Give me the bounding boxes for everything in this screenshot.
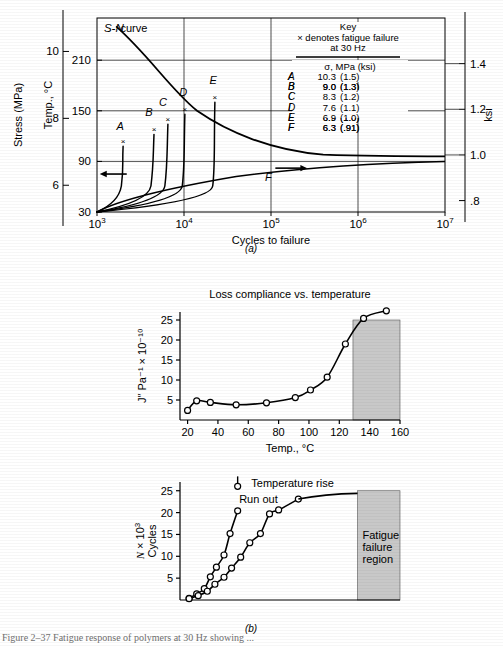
data-point-s0-4	[213, 564, 219, 570]
data-point-top-1	[194, 398, 200, 404]
temp-tick-90: 90	[78, 155, 91, 167]
data-point-s1-9	[267, 511, 273, 517]
failure-marker-D: ×	[183, 105, 188, 114]
panel-b-top-xlabel: Temp., °C	[266, 442, 314, 454]
xtick-label-7: 107	[436, 216, 454, 230]
key-row-mpa-top-F: 6.3	[323, 122, 336, 133]
failure-marker-A: ×	[121, 137, 126, 146]
panel-b-bot-ylabel-cycles: Cycles	[146, 524, 158, 558]
panel-b-top-title: Loss compliance vs. temperature	[209, 288, 370, 300]
failure-marker-E: ×	[213, 93, 218, 102]
panel-b-top-xtick-label-140: 140	[360, 426, 378, 438]
temp-tick-30: 30	[78, 206, 91, 218]
panel-a-chart: 103104105106107Cycles to failure30901502…	[0, 0, 503, 258]
panel-b-bottom-chart: Fatiguefailureregion510152025N × 103Cycl…	[0, 460, 503, 640]
panel-b-top-xtick-label-100: 100	[300, 426, 318, 438]
data-point-s1-0	[186, 596, 192, 602]
data-point-top-2	[207, 399, 213, 405]
temp-tick-150: 150	[72, 105, 91, 117]
panel-b-top-ytick-label-20: 20	[161, 334, 173, 346]
data-point-top-0	[185, 407, 191, 413]
panel-b-bot-ytick-label-5: 5	[167, 572, 173, 584]
panel-b-top-ytick-label-15: 15	[161, 354, 173, 366]
panel-a-caption: (a)	[245, 243, 257, 254]
temp-rise-tail	[298, 493, 357, 499]
xtick-label-6: 106	[349, 216, 367, 230]
panel-b-bot-ytick-label-15: 15	[161, 528, 173, 540]
ksi-tick-label-1: 1.0	[470, 149, 486, 161]
panel-b-top-xtick-label-40: 40	[212, 426, 224, 438]
curve-label-A: A	[115, 120, 123, 132]
xtick-label-3: 103	[88, 216, 106, 230]
data-point-s1-7	[247, 540, 253, 546]
data-point-top-4	[263, 400, 269, 406]
panel-b-top-ytick-label-10: 10	[161, 374, 173, 386]
xtick-label-4: 104	[175, 216, 193, 230]
data-point-top-8	[342, 341, 348, 347]
curve-label-B: B	[145, 106, 152, 118]
panel-b-top-xtick-label-60: 60	[242, 426, 254, 438]
panel-a-ylabel-temp: Temp., °C	[42, 81, 54, 129]
ksi-tick-label-3: 1.4	[470, 58, 487, 70]
curve-label-D: D	[179, 86, 187, 98]
data-point-s1-5	[229, 565, 235, 571]
data-point-s0-5	[221, 552, 227, 558]
panel-b-top-chart: Loss compliance vs. temperature510152025…	[0, 280, 503, 470]
key-row-label-top-F: F	[288, 122, 295, 133]
panel-b-bot-ytick-label-25: 25	[161, 485, 173, 497]
data-point-s1-2	[204, 588, 210, 594]
panel-b-bot-ytick-label-20: 20	[161, 507, 173, 519]
curve-label-C: C	[159, 96, 167, 108]
data-point-s1-8	[257, 531, 263, 537]
data-point-top-6	[307, 387, 313, 393]
figure-container: 103104105106107Cycles to failure30901502…	[0, 0, 503, 646]
data-point-s1-1	[195, 593, 201, 599]
panel-b-bot-ylabel: N × 103	[133, 522, 146, 560]
panel-b-top-ytick-label-5: 5	[167, 394, 173, 406]
stress-tick-10: 10	[46, 45, 59, 57]
s-n-curve-label-word: curve	[120, 22, 147, 34]
series-line-1	[189, 499, 298, 599]
panel-b-top-ytick-label-25: 25	[161, 314, 173, 326]
temperature-rise-label: Temperature rise	[251, 477, 334, 489]
data-point-s0-7	[235, 508, 241, 514]
key-row-ksi-top-F: (.91)	[340, 122, 360, 133]
panel-b-bot-ytick-label-10: 10	[161, 550, 173, 562]
key-subtitle-2-top: at 30 Hz	[330, 42, 366, 53]
failure-marker-C: ×	[166, 115, 171, 124]
panel-a-ylabel-stress: Stress (MPa)	[12, 83, 24, 147]
panel-b-top-xtick-label-20: 20	[181, 426, 193, 438]
xtick-label-5: 105	[262, 216, 280, 230]
panel-b-top-xtick-label-80: 80	[272, 426, 284, 438]
data-point-s1-10	[276, 507, 282, 513]
fatigue-shaded-region-top	[353, 320, 400, 420]
temp-tick-210: 210	[72, 54, 91, 66]
arrow-left-icon	[100, 171, 107, 177]
panel-b-top-xtick-label-120: 120	[330, 426, 348, 438]
fatigue-region-label-0: Fatigue	[363, 529, 400, 541]
curve-label-E: E	[210, 74, 218, 86]
data-point-top-10	[383, 308, 389, 314]
data-point-top-5	[292, 395, 298, 401]
data-point-s1-4	[221, 574, 227, 580]
data-point-s0-6	[227, 531, 233, 537]
data-point-s0-3	[207, 574, 213, 580]
run-out-top-point	[235, 483, 241, 489]
ksi-tick-label-0: .8	[470, 195, 480, 207]
panel-a-xlabel: Cycles to failure	[232, 234, 310, 246]
data-point-top-3	[233, 402, 239, 408]
figure-bottom-caption: Figure 2–37 Fatigue response of polymers…	[0, 632, 503, 646]
run-out-label: Run out	[239, 493, 278, 505]
data-point-top-7	[324, 374, 330, 380]
data-point-s1-3	[212, 581, 218, 587]
stress-tick-6: 6	[53, 179, 59, 191]
figure-caption-text: Figure 2–37 Fatigue response of polymers…	[0, 632, 503, 643]
panel-b-top-ylabel: J″ Pa⁻¹ × 10⁻¹⁰	[136, 328, 148, 403]
fatigue-region-label-2: region	[363, 553, 394, 565]
panel-a-ylabel-ksi: ksi	[482, 108, 494, 121]
arrow-right-icon	[300, 165, 307, 171]
fatigue-region-label-1: failure	[363, 541, 393, 553]
data-point-s1-6	[238, 554, 244, 560]
failure-marker-B: ×	[152, 125, 157, 134]
panel-b-top-xtick-label-160: 160	[391, 426, 409, 438]
